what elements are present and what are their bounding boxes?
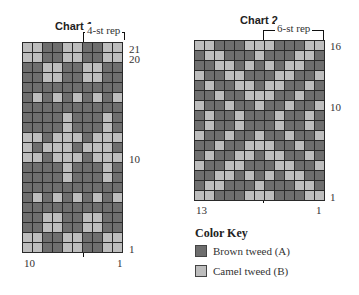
stitch-cell-brown	[265, 181, 274, 190]
stitch-cell-camel	[113, 233, 122, 242]
stitch-cell-brown	[83, 83, 92, 92]
stitch-cell-camel	[245, 81, 254, 90]
stitch-cell-camel	[235, 71, 244, 80]
stitch-cell-brown	[215, 191, 224, 200]
stitch-cell-camel	[73, 53, 82, 62]
stitch-cell-brown	[225, 121, 234, 130]
stitch-cell-brown	[63, 223, 72, 232]
stitch-cell-brown	[215, 71, 224, 80]
stitch-cell-brown	[245, 131, 254, 140]
chart1-rep-bracket-right	[124, 32, 125, 40]
stitch-cell-brown	[93, 53, 102, 62]
stitch-cell-brown	[53, 53, 62, 62]
stitch-cell-camel	[195, 71, 204, 80]
stitch-cell-camel	[275, 161, 284, 170]
stitch-cell-brown	[275, 131, 284, 140]
stitch-cell-camel	[53, 223, 62, 232]
stitch-cell-camel	[295, 51, 304, 60]
stitch-cell-camel	[103, 113, 112, 122]
stitch-cell-camel	[113, 193, 122, 202]
stitch-cell-brown	[33, 73, 42, 82]
stitch-cell-brown	[63, 183, 72, 192]
stitch-cell-camel	[245, 191, 254, 200]
stitch-cell-brown	[83, 113, 92, 122]
stitch-cell-camel	[63, 243, 72, 252]
stitch-cell-brown	[255, 81, 264, 90]
stitch-cell-brown	[33, 123, 42, 132]
stitch-cell-brown	[265, 101, 274, 110]
stitch-cell-camel	[93, 153, 102, 162]
stitch-cell-brown	[235, 101, 244, 110]
stitch-cell-brown	[33, 103, 42, 112]
stitch-cell-brown	[235, 61, 244, 70]
stitch-cell-brown	[295, 81, 304, 90]
stitch-cell-camel	[63, 153, 72, 162]
chart1-col-label-10: 10	[24, 257, 35, 269]
stitch-cell-brown	[103, 203, 112, 212]
stitch-cell-brown	[113, 123, 122, 132]
stitch-cell-brown	[93, 173, 102, 182]
stitch-cell-camel	[63, 163, 72, 172]
stitch-cell-camel	[205, 41, 214, 50]
stitch-cell-brown	[295, 111, 304, 120]
color-key-label-camel: Camel tweed (B)	[213, 265, 288, 277]
chart1-col-label-1: 1	[117, 257, 123, 269]
stitch-cell-camel	[205, 121, 214, 130]
stitch-cell-brown	[215, 101, 224, 110]
stitch-cell-camel	[215, 181, 224, 190]
stitch-cell-brown	[275, 41, 284, 50]
stitch-cell-brown	[103, 83, 112, 92]
stitch-cell-brown	[73, 223, 82, 232]
stitch-cell-camel	[113, 243, 122, 252]
stitch-cell-camel	[285, 61, 294, 70]
stitch-cell-brown	[53, 123, 62, 132]
stitch-cell-camel	[113, 53, 122, 62]
stitch-cell-brown	[93, 183, 102, 192]
stitch-cell-brown	[33, 143, 42, 152]
stitch-cell-brown	[43, 153, 52, 162]
stitch-cell-camel	[305, 151, 314, 160]
stitch-cell-camel	[53, 93, 62, 102]
stitch-cell-brown	[275, 61, 284, 70]
chart2-title: Chart 2	[240, 14, 278, 26]
stitch-cell-brown	[315, 151, 324, 160]
stitch-cell-brown	[43, 83, 52, 92]
stitch-cell-camel	[305, 81, 314, 90]
stitch-cell-brown	[43, 103, 52, 112]
stitch-cell-camel	[73, 193, 82, 202]
stitch-cell-brown	[63, 93, 72, 102]
stitch-cell-brown	[23, 93, 32, 102]
stitch-cell-camel	[93, 93, 102, 102]
stitch-cell-camel	[53, 63, 62, 72]
stitch-cell-brown	[235, 91, 244, 100]
stitch-cell-brown	[113, 213, 122, 222]
stitch-cell-camel	[33, 193, 42, 202]
stitch-cell-camel	[83, 223, 92, 232]
stitch-cell-brown	[23, 123, 32, 132]
stitch-cell-brown	[23, 223, 32, 232]
stitch-cell-camel	[225, 61, 234, 70]
stitch-cell-camel	[285, 161, 294, 170]
stitch-cell-brown	[285, 51, 294, 60]
stitch-cell-camel	[255, 131, 264, 140]
stitch-cell-brown	[23, 83, 32, 92]
stitch-cell-camel	[255, 41, 264, 50]
stitch-cell-brown	[113, 173, 122, 182]
stitch-cell-brown	[225, 91, 234, 100]
stitch-cell-camel	[83, 73, 92, 82]
stitch-cell-camel	[215, 141, 224, 150]
stitch-cell-brown	[73, 163, 82, 172]
chart2-col-label-13: 13	[196, 204, 207, 216]
stitch-cell-brown	[63, 193, 72, 202]
chart2-rep-label: 6-st rep	[275, 22, 312, 34]
stitch-cell-camel	[93, 63, 102, 72]
brown-swatch-icon	[195, 245, 207, 257]
stitch-cell-brown	[285, 191, 294, 200]
stitch-cell-brown	[275, 171, 284, 180]
stitch-cell-brown	[215, 161, 224, 170]
stitch-cell-brown	[295, 151, 304, 160]
stitch-cell-brown	[33, 223, 42, 232]
color-key-title: Color Key	[195, 226, 248, 241]
stitch-cell-brown	[315, 141, 324, 150]
stitch-cell-brown	[285, 111, 294, 120]
